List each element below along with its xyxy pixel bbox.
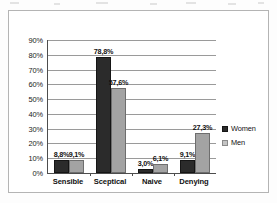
legend-item-women[interactable]: Women bbox=[222, 124, 264, 133]
bar-men-naive[interactable]: 6,1% bbox=[153, 164, 168, 173]
bar-men-sceptical[interactable]: 57,6% bbox=[111, 88, 126, 173]
bar-value-label: 27,3% bbox=[193, 123, 212, 132]
scan-artifact bbox=[228, 3, 236, 5]
x-tick-label-denying: Denying bbox=[173, 177, 215, 186]
scan-artifact bbox=[10, 2, 19, 4]
bar-groups: 8,8% 9,1% 78,8% 57,6% bbox=[48, 40, 216, 173]
y-tick-label: 0% bbox=[33, 169, 43, 178]
category-tick bbox=[174, 173, 175, 176]
scan-artifact bbox=[258, 2, 264, 4]
y-tick-label: 80% bbox=[29, 50, 44, 59]
y-tick-label: 40% bbox=[29, 109, 44, 118]
bar-value-label: 78,8% bbox=[94, 47, 113, 56]
scan-artifact bbox=[54, 3, 60, 5]
y-tick-label: 20% bbox=[29, 139, 44, 148]
legend-swatch-icon bbox=[222, 140, 228, 146]
legend-swatch-icon bbox=[222, 126, 228, 132]
bar-women-sensible[interactable]: 8,8% bbox=[54, 160, 69, 173]
y-tick-label: 70% bbox=[29, 65, 44, 74]
bar-value-label: 8,8% bbox=[54, 150, 70, 159]
bar-value-label: 57,6% bbox=[109, 78, 128, 87]
bar-men-denying[interactable]: 27,3% bbox=[195, 133, 210, 173]
x-tick-label-naive: Naive bbox=[131, 177, 173, 186]
bar-men-sensible[interactable]: 9,1% bbox=[69, 160, 84, 173]
y-tick-label: 10% bbox=[29, 154, 44, 163]
x-tick-label-sceptical: Sceptical bbox=[89, 177, 131, 186]
y-axis: 90% 80% 70% 60% 50% 40% 30% 20% 10% 0% bbox=[19, 40, 45, 173]
y-tick-label: 50% bbox=[29, 95, 44, 104]
y-tick-label: 90% bbox=[29, 36, 44, 45]
bar-group-sceptical: 78,8% 57,6% bbox=[90, 40, 132, 173]
bar-group-naive: 3,0% 6,1% bbox=[132, 40, 174, 173]
chart-frame: 90% 80% 70% 60% 50% 40% 30% 20% 10% 0% bbox=[8, 10, 269, 193]
plot-area: 8,8% 9,1% 78,8% 57,6% bbox=[47, 40, 216, 174]
chart-legend: Women Men bbox=[222, 124, 264, 152]
chart-page: 90% 80% 70% 60% 50% 40% 30% 20% 10% 0% bbox=[0, 0, 277, 203]
y-tick-label: 60% bbox=[29, 80, 44, 89]
category-tick bbox=[132, 173, 133, 176]
bar-value-label: 3,0% bbox=[138, 159, 154, 168]
bar-value-label: 6,1% bbox=[153, 154, 169, 163]
legend-label: Men bbox=[231, 138, 245, 147]
legend-label: Women bbox=[231, 124, 256, 133]
bar-women-denying[interactable]: 9,1% bbox=[180, 160, 195, 173]
x-axis: Sensible Sceptical Naive Denying bbox=[47, 177, 215, 186]
category-tick bbox=[90, 173, 91, 176]
bar-group-sensible: 8,8% 9,1% bbox=[48, 40, 90, 173]
y-tick-label: 30% bbox=[29, 124, 44, 133]
bar-women-naive[interactable]: 3,0% bbox=[138, 169, 153, 173]
bar-value-label: 9,1% bbox=[69, 150, 85, 159]
bar-value-label: 9,1% bbox=[180, 150, 196, 159]
legend-item-men[interactable]: Men bbox=[222, 138, 264, 147]
scan-artifact bbox=[186, 2, 196, 4]
scan-artifact bbox=[96, 2, 108, 4]
scan-artifact bbox=[150, 3, 157, 5]
x-tick-label-sensible: Sensible bbox=[47, 177, 89, 186]
bar-group-denying: 9,1% 27,3% bbox=[174, 40, 216, 173]
plot-wrapper: 90% 80% 70% 60% 50% 40% 30% 20% 10% 0% bbox=[19, 31, 262, 189]
bar-women-sceptical[interactable]: 78,8% bbox=[96, 57, 111, 173]
